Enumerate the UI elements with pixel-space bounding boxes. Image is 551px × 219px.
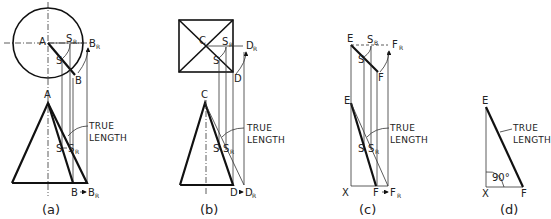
label-B-R-top: B	[89, 38, 96, 49]
label-B-front: B	[71, 187, 78, 198]
revolution-true-length-figure: A S R B R S B A S S R B B R	[0, 0, 551, 219]
cone-front-outline	[12, 103, 87, 183]
label-X-front: X	[342, 187, 349, 198]
label-S-top: S	[213, 55, 219, 66]
label-S-top: S	[56, 55, 62, 66]
diagram-svg: A S R B R S B A S S R B B R	[0, 0, 551, 219]
panel-b-top-view: C S R D R S D	[179, 20, 257, 84]
panel-b: C S R D R S D C S S R D D R TRUE	[179, 20, 285, 217]
label-S-R-front: S	[368, 143, 374, 154]
caption-d: (d)	[500, 202, 518, 217]
label-E-top: E	[347, 33, 353, 44]
svg-text:R: R	[252, 192, 256, 199]
true-length-label-2: LENGTH	[390, 135, 428, 145]
true-length-label-2: LENGTH	[513, 135, 551, 145]
revolution-arc-d	[236, 52, 246, 74]
true-length-label-1: TRUE	[389, 123, 415, 133]
true-length-label-2: LENGTH	[89, 133, 127, 143]
svg-text:R: R	[253, 45, 257, 52]
label-X: X	[482, 188, 489, 199]
label-F-R-front: F	[390, 187, 396, 198]
label-S-R-top: S	[66, 33, 72, 44]
svg-text:R: R	[229, 41, 233, 48]
label-S-R-front: S	[68, 143, 74, 154]
svg-text:R: R	[230, 148, 234, 155]
label-S-B-top: S	[367, 34, 373, 45]
revolution-arc-s	[219, 47, 226, 58]
label-D-top: D	[234, 73, 242, 84]
line-EF-top	[351, 45, 378, 72]
panel-c-front-view: E S S R X F F R TRUE LENGTH	[342, 95, 428, 199]
label-F-front: F	[373, 187, 379, 198]
leader-true-length	[500, 129, 512, 132]
label-C-top: C	[199, 35, 206, 46]
panel-c: E S B F R S F E S S R X F F R	[342, 33, 428, 217]
true-length-label-1: TRUE	[88, 121, 114, 131]
panel-d: E 90° X F TRUE LENGTH (d)	[482, 95, 551, 217]
svg-text:R: R	[95, 192, 99, 199]
label-S-front: S	[358, 143, 364, 154]
svg-text:R: R	[375, 148, 379, 155]
label-B-top: B	[75, 75, 82, 86]
label-S-front: S	[56, 143, 62, 154]
leader-true-length	[68, 126, 88, 136]
label-E: E	[482, 95, 488, 106]
label-F: F	[521, 188, 527, 199]
label-S-R-front: S	[223, 143, 229, 154]
panel-c-top-view: E S B F R S F	[347, 33, 403, 83]
label-D-front: D	[230, 187, 238, 198]
svg-text:B: B	[374, 39, 378, 46]
label-S-top: S	[358, 54, 364, 65]
label-F-R-top: F	[392, 39, 398, 50]
revolution-arc-b	[78, 48, 88, 73]
label-B-R-front: B	[88, 187, 95, 198]
label-C-front: C	[201, 89, 208, 100]
label-A-top: A	[39, 36, 46, 47]
panel-a: A S R B R S B A S S R B B R	[4, 2, 127, 217]
label-E-front: E	[344, 95, 350, 106]
svg-text:R: R	[75, 148, 79, 155]
panel-b-front-view: C S S R D D R TRUE LENGTH	[180, 89, 285, 199]
svg-text:R: R	[399, 44, 403, 51]
svg-text:R: R	[73, 38, 77, 45]
label-angle-90: 90°	[492, 172, 510, 183]
true-length-label-1: TRUE	[246, 123, 272, 133]
true-length-label-1: TRUE	[512, 123, 538, 133]
label-A-front: A	[44, 89, 51, 100]
leader-true-length	[367, 128, 389, 137]
revolution-arc-s	[62, 44, 70, 59]
panel-a-top-view: A S R B R S B	[4, 2, 100, 98]
svg-text:R: R	[397, 192, 401, 199]
label-F-top: F	[378, 72, 384, 83]
revolution-arc-s	[364, 46, 371, 57]
label-S-front: S	[213, 143, 219, 154]
caption-b: (b)	[200, 202, 218, 217]
label-S-R-top: S	[222, 36, 228, 47]
panel-a-front-view: A S S R B B R TRUE LENGTH	[12, 89, 127, 199]
caption-c: (c)	[359, 202, 376, 217]
true-length-label-2: LENGTH	[247, 135, 285, 145]
svg-text:R: R	[96, 43, 100, 50]
caption-a: (a)	[42, 202, 60, 217]
